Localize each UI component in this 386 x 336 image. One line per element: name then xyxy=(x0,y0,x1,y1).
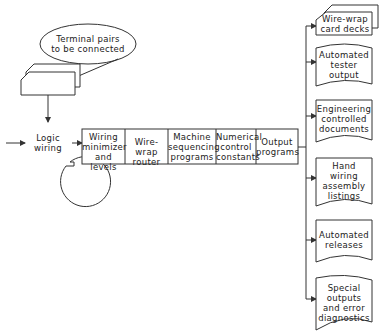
pipeline-step-wire-wrap-router: Wire-wrap router xyxy=(125,137,168,167)
output-hand-wiring-listings: Hand wiring assembly listings xyxy=(316,161,372,201)
pipeline-step-numerical-control: Numerical control constants xyxy=(216,132,256,162)
output-wire-wrap-card-decks: Wire-wrap card decks xyxy=(318,14,372,34)
logic-wiring-label: Logic wiring xyxy=(24,133,72,153)
output-special-diagnostics: Special outputs and error diagnostics xyxy=(316,283,372,323)
pipeline-step-machine-sequencing: Machine sequencing programs xyxy=(168,132,216,162)
pipeline-step-wiring-minimizer: Wiring minimizer and levels xyxy=(82,132,125,172)
output-automated-releases: Automated releases xyxy=(316,230,372,250)
output-automated-tester: Automated tester output xyxy=(316,50,372,80)
output-engineering-documents: Engineering controlled documents xyxy=(316,104,372,134)
pipeline-step-output-programs: Output programs xyxy=(256,137,298,157)
input-card-front xyxy=(21,72,75,95)
terminal-pairs-label: Terminal pairs to be connected xyxy=(42,34,134,54)
